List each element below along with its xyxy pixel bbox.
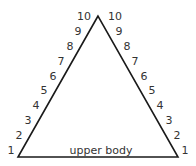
base-label: upper body xyxy=(70,144,133,157)
left-scale-label-3: 3 xyxy=(25,114,32,127)
left-scale-labels: 12345678910 xyxy=(8,10,92,157)
right-scale-label-5: 5 xyxy=(149,84,156,97)
right-scale-label-10: 10 xyxy=(108,10,122,23)
right-scale-label-2: 2 xyxy=(174,129,181,142)
right-scale-label-8: 8 xyxy=(124,40,131,53)
left-scale-label-5: 5 xyxy=(41,84,48,97)
left-scale-label-8: 8 xyxy=(67,40,74,53)
left-scale-label-9: 9 xyxy=(75,25,82,38)
left-scale-label-10: 10 xyxy=(77,10,91,23)
left-scale-label-4: 4 xyxy=(33,99,40,112)
right-scale-label-4: 4 xyxy=(157,99,164,112)
left-scale-label-2: 2 xyxy=(16,129,23,142)
right-scale-label-7: 7 xyxy=(132,55,139,68)
left-scale-label-6: 6 xyxy=(50,70,57,83)
triangle-scale-diagram: 12345678910 12345678910 upper body xyxy=(0,0,196,166)
left-scale-label-7: 7 xyxy=(58,55,65,68)
right-scale-label-1: 1 xyxy=(182,144,189,157)
right-scale-labels: 12345678910 xyxy=(108,10,189,157)
left-scale-label-1: 1 xyxy=(8,144,15,157)
right-scale-label-9: 9 xyxy=(116,25,123,38)
right-scale-label-6: 6 xyxy=(141,70,148,83)
right-scale-label-3: 3 xyxy=(166,114,173,127)
